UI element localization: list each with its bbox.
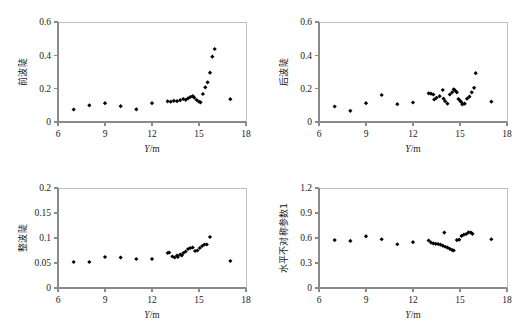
data-point — [150, 257, 154, 261]
data-point — [411, 100, 415, 104]
data-point — [169, 100, 173, 104]
data-point — [150, 101, 154, 105]
data-point — [470, 90, 474, 94]
y-tick-label: 0 — [307, 117, 312, 127]
data-point-series — [72, 47, 233, 112]
data-point — [364, 101, 368, 105]
y-tick-label: 0.4 — [39, 51, 51, 61]
data-point — [395, 242, 399, 246]
data-point — [103, 101, 107, 105]
chart-bottom-left: 00.050.10.150.269121518Y/m整波陡 — [0, 166, 260, 331]
scatter-panel-bottom-left: 00.050.10.150.269121518Y/m整波陡 — [0, 166, 260, 331]
data-point — [474, 71, 478, 75]
y-axis-title: 水平不对称参数1 — [278, 203, 289, 273]
data-point — [87, 103, 91, 107]
x-tick-label: 9 — [103, 129, 108, 139]
data-point — [228, 97, 232, 101]
x-axis-title: Y/m — [144, 310, 160, 320]
x-tick-label: 15 — [455, 129, 465, 139]
data-point — [213, 47, 217, 51]
x-tick-label: 15 — [194, 295, 204, 305]
data-point — [175, 99, 179, 103]
x-tick-label: 6 — [56, 295, 61, 305]
x-tick-label: 12 — [147, 129, 157, 139]
data-point — [442, 230, 446, 234]
data-point — [208, 235, 212, 239]
data-point — [72, 107, 76, 111]
x-tick-label: 15 — [194, 129, 204, 139]
chart-top-right: 00.20.40.669121518Y/m后波陡 — [261, 0, 521, 165]
data-point-series — [333, 71, 494, 113]
y-tick-label: 0.05 — [34, 258, 51, 268]
x-tick-label: 12 — [408, 295, 418, 305]
y-tick-label: 0.6 — [300, 233, 312, 243]
plot-frame — [58, 188, 246, 288]
data-point — [364, 234, 368, 238]
y-tick-label: 1.2 — [300, 183, 312, 193]
data-point — [489, 100, 493, 104]
x-tick-label: 12 — [408, 129, 418, 139]
data-point — [210, 55, 214, 59]
data-point — [228, 259, 232, 263]
y-tick-label: 0 — [46, 117, 51, 127]
data-point — [87, 260, 91, 264]
data-point — [411, 240, 415, 244]
data-point-series — [333, 230, 494, 252]
x-tick-label: 18 — [502, 129, 512, 139]
data-point-series — [72, 235, 233, 264]
data-point — [348, 239, 352, 243]
plot-frame — [58, 22, 246, 122]
y-axis-title: 后波陡 — [278, 58, 289, 86]
data-point — [380, 237, 384, 241]
data-point — [472, 86, 476, 90]
y-tick-label: 0.9 — [300, 208, 312, 218]
data-point — [203, 85, 207, 89]
data-point — [119, 255, 123, 259]
scatter-panel-top-right: 00.20.40.669121518Y/m后波陡 — [261, 0, 521, 165]
y-tick-label: 0 — [307, 283, 312, 293]
y-tick-label: 0.1 — [39, 233, 51, 243]
data-point — [72, 260, 76, 264]
chart-top-left: 00.20.40.669121518Y/m前波陡 — [0, 0, 260, 165]
x-axis-title: Y/m — [405, 310, 421, 320]
x-axis-title: Y/m — [405, 144, 421, 154]
y-tick-label: 0.15 — [34, 208, 51, 218]
data-point — [333, 104, 337, 108]
data-point — [333, 238, 337, 242]
x-tick-label: 15 — [455, 295, 465, 305]
x-tick-label: 18 — [241, 129, 251, 139]
scatter-panel-bottom-right: 00.30.60.91.269121518Y/m水平不对称参数1 — [261, 166, 521, 331]
x-tick-label: 6 — [317, 129, 322, 139]
y-axis-title: 整波陡 — [17, 224, 28, 252]
x-tick-label: 9 — [364, 129, 369, 139]
x-tick-label: 6 — [317, 295, 322, 305]
y-tick-label: 0.4 — [300, 51, 312, 61]
data-point — [380, 93, 384, 97]
data-point — [348, 109, 352, 113]
plot-frame — [319, 188, 507, 288]
data-point — [205, 242, 209, 246]
data-point — [134, 107, 138, 111]
x-tick-label: 6 — [56, 129, 61, 139]
data-point — [206, 80, 210, 84]
data-point — [208, 71, 212, 75]
chart-bottom-right: 00.30.60.91.269121518Y/m水平不对称参数1 — [261, 166, 521, 331]
y-tick-label: 0.2 — [39, 84, 51, 94]
x-tick-label: 18 — [502, 295, 512, 305]
x-tick-label: 12 — [147, 295, 157, 305]
data-point — [395, 102, 399, 106]
data-point — [119, 104, 123, 108]
x-tick-label: 9 — [364, 295, 369, 305]
x-axis-title: Y/m — [144, 144, 160, 154]
data-point — [489, 237, 493, 241]
y-tick-label: 0 — [46, 283, 51, 293]
data-point — [441, 88, 445, 92]
data-point — [134, 257, 138, 261]
y-tick-label: 0.2 — [300, 84, 312, 94]
y-tick-label: 0.6 — [39, 17, 51, 27]
x-tick-label: 18 — [241, 295, 251, 305]
data-point — [201, 92, 205, 96]
y-tick-label: 0.2 — [39, 183, 51, 193]
x-tick-label: 9 — [103, 295, 108, 305]
scatter-panel-top-left: 00.20.40.669121518Y/m前波陡 — [0, 0, 260, 165]
